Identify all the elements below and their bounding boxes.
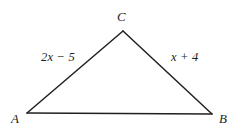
vertex-label-c: C: [117, 10, 126, 23]
side-length-label-bc: x + 4: [171, 51, 198, 64]
triangle-figure: C A B 2x − 5 x + 4: [0, 0, 239, 130]
triangle-side-ac: [27, 31, 123, 113]
triangle-side-ab: [27, 113, 212, 114]
vertex-label-a: A: [11, 112, 19, 125]
vertex-label-b: B: [219, 112, 227, 125]
triangle-side-bc: [123, 31, 212, 114]
side-length-label-ac: 2x − 5: [41, 51, 75, 64]
